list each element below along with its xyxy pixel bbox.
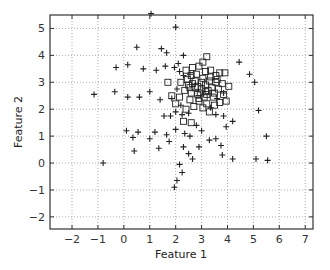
- plus-marker: [236, 59, 242, 65]
- plus-marker: [166, 139, 172, 145]
- plus-marker: [187, 133, 193, 139]
- x-tick-label: −1: [90, 233, 106, 246]
- plus-marker: [213, 136, 219, 142]
- x-tick-label: 1: [146, 233, 153, 246]
- plus-marker: [112, 89, 118, 95]
- plus-marker: [156, 145, 162, 151]
- plus-marker: [186, 151, 192, 157]
- plus-marker: [230, 118, 236, 124]
- x-axis-title: Feature 1: [155, 248, 207, 261]
- square-marker: [223, 98, 229, 104]
- plus-marker: [162, 63, 168, 69]
- plus-marker: [164, 132, 170, 138]
- plus-marker: [199, 128, 205, 134]
- plus-marker: [256, 108, 262, 114]
- square-marker: [180, 118, 186, 124]
- y-tick-label: 2: [38, 103, 45, 116]
- square-marker: [187, 97, 193, 103]
- plus-marker: [213, 112, 219, 118]
- plot-frame: [50, 15, 313, 229]
- plus-marker: [223, 124, 229, 130]
- y-axis-title: Feature 2: [12, 96, 25, 148]
- y-tick-label: 0: [38, 157, 45, 170]
- square-marker: [204, 101, 210, 107]
- y-tick-label: 4: [38, 49, 45, 62]
- plus-marker: [113, 64, 119, 70]
- plus-marker: [91, 91, 97, 97]
- x-tick-label: −2: [64, 233, 80, 246]
- x-tick-label: 4: [224, 233, 231, 246]
- plus-marker: [136, 94, 142, 100]
- plus-marker: [147, 89, 153, 95]
- plus-marker: [230, 156, 236, 162]
- plus-marker: [190, 156, 196, 162]
- plus-marker: [177, 69, 183, 75]
- plus-marker: [125, 62, 131, 68]
- y-tick-label: 5: [38, 22, 45, 35]
- plus-marker: [182, 130, 188, 136]
- y-tick-label: −1: [29, 184, 45, 197]
- plus-marker: [196, 144, 202, 150]
- plus-marker: [173, 24, 179, 30]
- plus-marker: [263, 133, 269, 139]
- plus-marker: [253, 156, 259, 162]
- plus-marker: [219, 152, 225, 158]
- plus-marker: [164, 50, 170, 56]
- plus-marker: [175, 60, 181, 66]
- plus-marker: [153, 67, 159, 73]
- plus-marker: [167, 113, 173, 119]
- x-tick-label: 0: [120, 233, 127, 246]
- plus-marker: [179, 169, 185, 175]
- plus-marker: [125, 94, 131, 100]
- plus-marker: [148, 11, 154, 17]
- plot-canvas: −2−101234567 −2−1012345 Feature 1 Featur…: [0, 0, 330, 270]
- plus-marker: [131, 148, 137, 154]
- axis-ticks: [50, 15, 313, 229]
- y-tick-labels: −2−1012345: [29, 22, 45, 223]
- series-square: [165, 54, 232, 126]
- plus-marker: [180, 144, 186, 150]
- scatter-chart: −2−101234567 −2−1012345 Feature 1 Featur…: [0, 0, 330, 270]
- plus-marker: [221, 113, 227, 119]
- plus-marker: [180, 52, 186, 58]
- plus-marker: [157, 97, 163, 103]
- plus-marker: [123, 128, 129, 134]
- square-marker: [196, 63, 202, 69]
- plus-marker: [247, 71, 253, 77]
- y-tick-label: −2: [29, 211, 45, 224]
- x-tick-labels: −2−101234567: [64, 233, 309, 246]
- plus-marker: [100, 160, 106, 166]
- x-tick-label: 2: [172, 233, 179, 246]
- grid-lines: [50, 15, 313, 229]
- plus-marker: [158, 46, 164, 52]
- x-tick-label: 6: [276, 233, 283, 246]
- plus-marker: [135, 129, 141, 135]
- plus-marker: [140, 66, 146, 72]
- square-marker: [177, 94, 183, 100]
- plus-marker: [173, 126, 179, 132]
- square-marker: [190, 64, 196, 70]
- plus-marker: [152, 129, 158, 135]
- x-tick-label: 5: [250, 233, 257, 246]
- x-tick-label: 3: [198, 233, 205, 246]
- plus-marker: [171, 184, 177, 190]
- square-marker: [188, 120, 194, 126]
- plus-marker: [130, 134, 136, 140]
- square-marker: [206, 109, 212, 115]
- data-points: [91, 11, 271, 191]
- plus-marker: [218, 143, 224, 149]
- plus-marker: [206, 137, 212, 143]
- plus-marker: [134, 44, 140, 50]
- plus-marker: [177, 161, 183, 167]
- y-tick-label: 1: [38, 130, 45, 143]
- plus-marker: [171, 64, 177, 70]
- plus-marker: [173, 109, 179, 115]
- plus-marker: [174, 178, 180, 184]
- square-marker: [226, 83, 232, 89]
- y-tick-label: 3: [38, 76, 45, 89]
- plus-marker: [147, 136, 153, 142]
- plus-marker: [252, 79, 258, 85]
- plus-marker: [265, 157, 271, 163]
- square-marker: [200, 105, 206, 111]
- plus-marker: [174, 86, 180, 92]
